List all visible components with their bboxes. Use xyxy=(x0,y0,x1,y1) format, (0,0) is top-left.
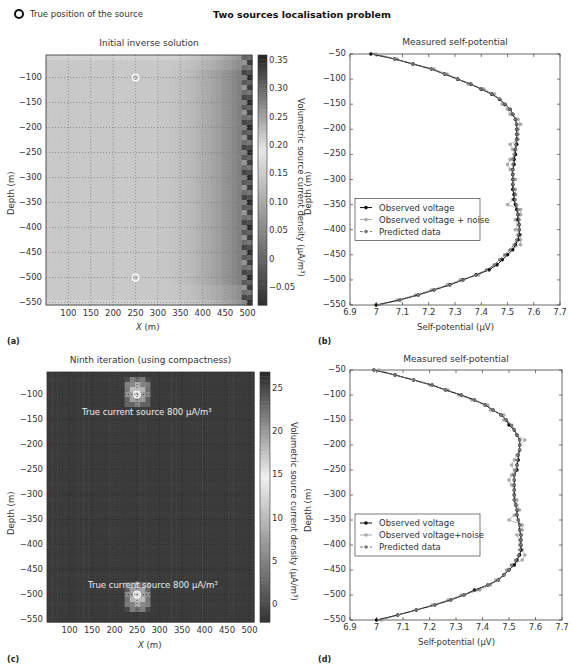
annotation-bottom-source: True current source 800 μA/m³ xyxy=(88,580,218,590)
tick-label: 500 xyxy=(238,625,262,635)
panel-b-ylabel: Depth (m) xyxy=(303,171,313,215)
tick-label: 7.3 xyxy=(444,622,468,632)
panel-c-colorbar xyxy=(260,372,270,622)
tick-label: 300 xyxy=(146,308,170,318)
tick-label: −450 xyxy=(323,249,346,259)
tick-label: −500 xyxy=(323,589,346,599)
tick-label: −400 xyxy=(323,224,346,234)
annotation-top-source: True current source 800 μA/m³ xyxy=(82,407,212,417)
tick-label: −200 xyxy=(19,122,42,132)
tick-label: 0.30 xyxy=(269,83,288,93)
tick-label: 7.1 xyxy=(391,622,415,632)
tick-label: 400 xyxy=(193,625,217,635)
tick-label: 7.7 xyxy=(548,307,572,317)
tick-label: 0 xyxy=(272,599,277,609)
tick-label: 7.7 xyxy=(550,622,574,632)
tick-label: 7.4 xyxy=(469,307,493,317)
tick-label: −250 xyxy=(323,148,346,158)
tick-label: −200 xyxy=(20,439,43,449)
tick-label: −150 xyxy=(323,414,346,424)
tick-label: 6.9 xyxy=(338,622,362,632)
tick-label: 0 xyxy=(269,254,274,264)
tick-label: 450 xyxy=(215,625,239,635)
tick-label: 0.35 xyxy=(269,55,288,65)
header-legend: True position of the source xyxy=(14,9,143,19)
tick-label: −150 xyxy=(19,97,42,107)
tick-label: −350 xyxy=(20,514,43,524)
tick-label: −350 xyxy=(323,199,346,209)
tick-label: 7.5 xyxy=(496,307,520,317)
panel-c-label: (c) xyxy=(7,655,19,664)
tick-label: −400 xyxy=(19,222,42,232)
tick-label: 250 xyxy=(125,625,149,635)
tick-label: −200 xyxy=(323,439,346,449)
legend-text: True position of the source xyxy=(30,9,143,19)
tick-label: 7.5 xyxy=(497,622,521,632)
panel-b-xlabel: Self-potential (μV) xyxy=(417,322,494,332)
tick-label: 7.4 xyxy=(471,622,495,632)
panel-a-plot xyxy=(46,55,252,305)
tick-label: 7.1 xyxy=(391,307,415,317)
legend-entry: Observed voltage+noise xyxy=(379,530,484,540)
panel-b-plot: Observed voltageObserved voltage + noise… xyxy=(350,54,560,305)
tick-label: 500 xyxy=(236,308,260,318)
tick-label: 15 xyxy=(272,469,283,479)
tick-label: −300 xyxy=(19,172,42,182)
open-circle-icon xyxy=(14,9,24,19)
tick-label: 350 xyxy=(170,625,194,635)
panel-a-title: Initial inverse solution xyxy=(46,38,252,48)
panel-a-label: (a) xyxy=(7,337,20,346)
panel-b-label: (b) xyxy=(318,337,331,346)
tick-label: 200 xyxy=(103,625,127,635)
legend-entry: Observed voltage xyxy=(379,518,454,528)
tick-label: −250 xyxy=(323,464,346,474)
tick-label: −300 xyxy=(323,489,346,499)
tick-label: 7.6 xyxy=(524,622,548,632)
tick-label: −100 xyxy=(19,72,42,82)
tick-label: 7.2 xyxy=(418,622,442,632)
tick-label: 200 xyxy=(101,308,125,318)
panel-b-title: Measured self-potential xyxy=(350,37,560,47)
tick-label: 0.10 xyxy=(269,197,288,207)
panel-d-title: Measured self-potential xyxy=(350,354,562,364)
tick-label: −500 xyxy=(323,274,346,284)
tick-label: 0.25 xyxy=(269,112,288,122)
tick-label: 7.6 xyxy=(522,307,546,317)
panel-d-plot: Observed voltageObserved voltage+noisePr… xyxy=(350,370,562,620)
legend-entry: Predicted data xyxy=(379,542,441,552)
panel-c-xlabel: X (m) xyxy=(138,640,161,650)
panel-c-ylabel: Depth (m) xyxy=(6,491,16,535)
tick-label: 0.20 xyxy=(269,140,288,150)
panel-d-xlabel: Self-potential (μV) xyxy=(418,637,495,647)
panel-c-title: Ninth iteration (using compactness) xyxy=(47,355,254,365)
tick-label: −200 xyxy=(323,123,346,133)
tick-label: 450 xyxy=(213,308,237,318)
tick-label: −450 xyxy=(20,564,43,574)
tick-label: 100 xyxy=(56,308,80,318)
tick-label: 100 xyxy=(58,625,82,635)
tick-label: 5 xyxy=(272,556,277,566)
tick-label: −400 xyxy=(20,539,43,549)
panel-c-xticks: 100150200250300350400450500 xyxy=(47,625,254,637)
tick-label: 300 xyxy=(148,625,172,635)
tick-label: −350 xyxy=(19,197,42,207)
panel-b-xticks: 6.977.17.27.37.47.57.67.7 xyxy=(350,307,560,319)
tick-label: −300 xyxy=(20,489,43,499)
tick-label: −0.05 xyxy=(269,282,295,292)
tick-label: −250 xyxy=(20,464,43,474)
panel-a-xticks: 100150200250300350400450500 xyxy=(46,308,252,320)
tick-label: 7.2 xyxy=(417,307,441,317)
tick-label: 0.05 xyxy=(269,225,288,235)
panel-a-colorbar xyxy=(258,55,267,305)
tick-label: 7 xyxy=(364,307,388,317)
tick-label: 6.9 xyxy=(338,307,362,317)
tick-label: 150 xyxy=(80,625,104,635)
tick-label: −100 xyxy=(20,389,43,399)
tick-label: −450 xyxy=(19,247,42,257)
tick-label: 7.3 xyxy=(443,307,467,317)
panel-a-colorbar-ticks: 0.350.300.250.200.150.100.050−0.05 xyxy=(269,55,299,305)
panel-c-colorbar-label: Volumetric source current density (μA/m³… xyxy=(289,422,299,601)
main-title: Two sources localisation problem xyxy=(213,9,391,20)
panel-d-label: (d) xyxy=(318,655,331,664)
tick-label: −450 xyxy=(323,564,346,574)
